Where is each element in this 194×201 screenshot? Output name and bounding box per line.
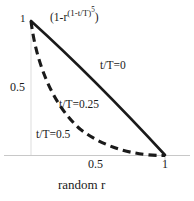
x-tick-label-0-5: 0.5 [88, 158, 103, 170]
x-axis-title: random r [58, 178, 105, 191]
y-tick-label-1: 1 [20, 13, 26, 24]
curve-label-t-over-T-0-5: t/T=0.5 [36, 129, 70, 141]
curve-label-t-over-T-0-25: t/T=0.25 [59, 99, 99, 111]
formula-base: (1-r [50, 11, 67, 23]
formula-close-paren: ) [95, 11, 99, 23]
formula-exponent: (1-t/T)5 [67, 8, 95, 18]
curve-label-t-over-T-0: t/T=0 [100, 60, 126, 72]
y-tick-label-0-5: 0.5 [10, 81, 25, 93]
x-tick-label-1: 1 [162, 158, 168, 170]
formula-annotation: (1-r(1-t/T)5) [50, 10, 99, 23]
formula-exponent-base: (1-t/T) [67, 8, 91, 18]
figure-plot: (1-r(1-t/T)5) 1 0.5 0.5 1 random r t/T=0… [0, 0, 194, 201]
